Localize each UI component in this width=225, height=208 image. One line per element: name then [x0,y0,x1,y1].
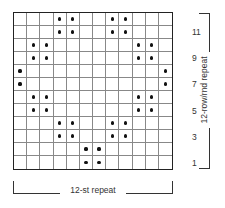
chart-cell [27,26,40,39]
chart-cell [106,52,119,65]
chart-cell [14,156,27,169]
chart-cell [54,104,67,117]
chart-cell [119,104,132,117]
chart-cell [133,104,146,117]
chart-cell [133,13,146,26]
chart-cell [106,143,119,156]
purl-dot-icon [111,30,114,33]
purl-dot-icon [71,134,74,137]
chart-cell [119,130,132,143]
chart-cell [67,13,80,26]
purl-dot-icon [71,17,74,20]
chart-cell [80,39,93,52]
chart-cell [67,117,80,130]
chart-cell [106,26,119,39]
chart-cell [14,117,27,130]
purl-dot-icon [18,82,21,85]
chart-cell [159,52,172,65]
chart-cell [80,91,93,104]
chart-cell [146,91,159,104]
purl-dot-icon [150,108,153,111]
chart-cell [146,117,159,130]
chart-cell [14,91,27,104]
chart-cell [14,26,27,39]
chart-cell [119,13,132,26]
chart-cell [67,39,80,52]
purl-dot-icon [150,95,153,98]
chart-cell [146,104,159,117]
purl-dot-icon [150,43,153,46]
chart-cell [93,143,106,156]
knitting-chart-grid [13,12,173,170]
chart-cell [119,78,132,91]
chart-cell [14,78,27,91]
chart-cell [159,91,172,104]
chart-cell [40,143,53,156]
purl-dot-icon [124,134,127,137]
chart-cell [40,130,53,143]
purl-dot-icon [137,56,140,59]
chart-cell [133,78,146,91]
purl-dot-icon [111,134,114,137]
purl-dot-icon [45,43,48,46]
bracket-left [13,181,60,194]
chart-cell [40,26,53,39]
chart-cell [40,117,53,130]
purl-dot-icon [58,134,61,137]
purl-dot-icon [45,108,48,111]
chart-cell [54,39,67,52]
chart-cell [80,65,93,78]
chart-cell [27,156,40,169]
chart-cell [54,117,67,130]
chart-cell [54,78,67,91]
chart-cell [119,156,132,169]
chart-cell [93,117,106,130]
chart-cell [14,39,27,52]
chart-cell [14,104,27,117]
purl-dot-icon [111,121,114,124]
chart-cell [159,130,172,143]
chart-cell [133,91,146,104]
chart-cell [67,130,80,143]
chart-cell [93,130,106,143]
chart-cell [80,13,93,26]
chart-cell [40,78,53,91]
chart-cell [119,39,132,52]
chart-cell [133,143,146,156]
chart-cell [27,91,40,104]
bracket-bottom [199,128,210,169]
chart-cell [67,78,80,91]
chart-cell [40,52,53,65]
chart-cell [40,156,53,169]
chart-cell [54,143,67,156]
chart-cell [80,143,93,156]
chart-cell [146,65,159,78]
purl-dot-icon [71,121,74,124]
chart-cell [93,104,106,117]
chart-cell [159,13,172,26]
chart-cell [40,91,53,104]
chart-cell [146,52,159,65]
purl-dot-icon [45,56,48,59]
chart-cell [106,104,119,117]
chart-cell [146,130,159,143]
purl-dot-icon [164,82,167,85]
chart-cell [133,117,146,130]
chart-cell [27,13,40,26]
chart-cell [106,117,119,130]
purl-dot-icon [137,95,140,98]
chart-cell [93,52,106,65]
chart-cell [67,65,80,78]
chart-cell [106,130,119,143]
chart-cell [40,104,53,117]
chart-cell [67,104,80,117]
chart-cell [106,156,119,169]
purl-dot-icon [137,108,140,111]
purl-dot-icon [84,161,87,164]
chart-cell [67,91,80,104]
purl-dot-icon [84,147,87,150]
chart-cell [80,52,93,65]
chart-cell [14,65,27,78]
row-repeat-label: 12-row/rnd repeat [199,56,209,123]
chart-cell [27,78,40,91]
